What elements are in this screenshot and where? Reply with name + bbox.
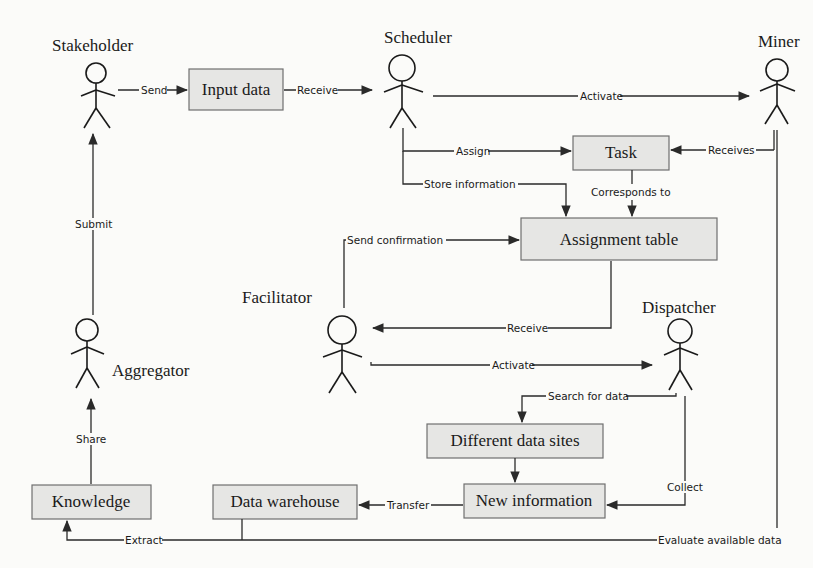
- edge-label: Send confirmation: [347, 234, 443, 246]
- edge-receive-input: Receive: [284, 84, 372, 96]
- actor-scheduler: Scheduler: [384, 28, 452, 128]
- box-label: Different data sites: [450, 431, 579, 450]
- box-new-information: New information: [464, 484, 605, 518]
- edge-label: Store information: [424, 178, 516, 190]
- edge-collect: Collect: [607, 396, 705, 505]
- edge-receives: Receives: [671, 130, 777, 528]
- edge-send: Send: [118, 84, 187, 96]
- edge-label: Activate: [580, 90, 623, 102]
- actor-label-facilitator: Facilitator: [242, 288, 312, 307]
- box-label: Data warehouse: [230, 492, 339, 511]
- actor-stakeholder: Stakeholder: [52, 36, 134, 128]
- box-different-data-sites: Different data sites: [427, 424, 603, 458]
- edge-corresponds-to: Corresponds to: [591, 170, 671, 216]
- box-label: New information: [476, 491, 593, 510]
- edge-label: Assign: [456, 145, 490, 157]
- box-assignment-table: Assignment table: [521, 218, 717, 260]
- edge-activate-miner: Activate: [433, 90, 749, 102]
- edge-transfer: Transfer: [359, 499, 463, 511]
- stick-figure-icon: [71, 319, 104, 388]
- edge-label: Receives: [708, 144, 755, 156]
- box-task: Task: [573, 136, 669, 170]
- actor-label-miner: Miner: [758, 32, 800, 51]
- actor-dispatcher: Dispatcher: [642, 298, 716, 390]
- box-label: Input data: [202, 80, 271, 99]
- actor-label-stakeholder: Stakeholder: [52, 36, 134, 55]
- actor-miner: Miner: [758, 32, 800, 124]
- box-input-data: Input data: [189, 69, 283, 110]
- edge-label: Search for data: [548, 390, 629, 402]
- actor-label-scheduler: Scheduler: [384, 28, 452, 47]
- edge-store-information: Store information: [403, 151, 566, 216]
- edge-label: Share: [76, 433, 106, 445]
- edge-label: Collect: [667, 481, 703, 493]
- edge-assign: Assign: [403, 128, 571, 157]
- actor-label-aggregator: Aggregator: [112, 361, 190, 380]
- actor-aggregator: Aggregator: [71, 319, 190, 388]
- box-data-warehouse: Data warehouse: [213, 485, 357, 519]
- edge-submit: Submit: [74, 134, 114, 315]
- stick-figure-icon: [664, 319, 698, 390]
- stick-figure-icon: [384, 55, 423, 128]
- stick-figure-icon: [760, 59, 795, 124]
- edge-evaluate-available-data: Evaluate available data: [657, 534, 782, 546]
- edge-receive-facilitator: Receive: [373, 261, 611, 334]
- edge-search-for-data: Search for data: [522, 390, 676, 422]
- edge-send-confirmation: Send confirmation: [344, 234, 519, 308]
- edge-share: Share: [74, 399, 108, 484]
- stick-figure-icon: [81, 63, 115, 128]
- edge-label: Receive: [507, 322, 548, 334]
- stick-figure-icon: [323, 316, 362, 393]
- box-label: Knowledge: [52, 492, 130, 511]
- box-label: Task: [605, 143, 637, 162]
- edge-label: Evaluate available data: [658, 534, 782, 546]
- edge-label: Corresponds to: [591, 186, 671, 198]
- edge-label: Extract: [125, 534, 163, 546]
- edge-label: Transfer: [386, 499, 430, 511]
- edge-label: Activate: [492, 359, 535, 371]
- edge-label: Submit: [75, 218, 112, 230]
- edge-label: Send: [141, 84, 167, 96]
- box-knowledge: Knowledge: [32, 485, 151, 519]
- actor-label-dispatcher: Dispatcher: [642, 298, 716, 317]
- edge-activate-dispatcher: Activate: [371, 359, 652, 371]
- edge-label: Receive: [297, 84, 338, 96]
- process-diagram: Stakeholder Scheduler Miner Facilitator: [0, 0, 813, 568]
- box-label: Assignment table: [560, 230, 679, 249]
